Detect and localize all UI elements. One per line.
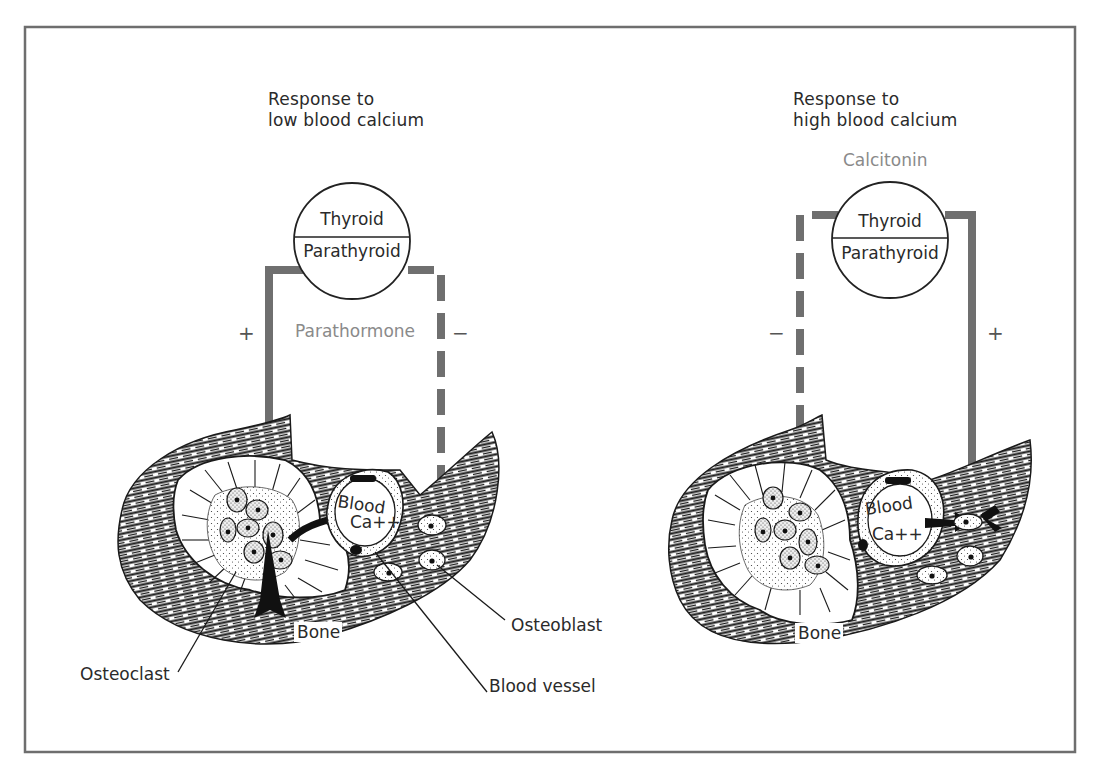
right-hormone-label: Calcitonin — [843, 150, 927, 170]
left-pathway-dashed — [408, 270, 441, 495]
right-panel: Response to high blood calcium Calcitoni… — [669, 89, 1032, 644]
left-plus-sign: + — [238, 321, 255, 345]
right-bone-label: Bone — [798, 623, 841, 643]
left-minus-sign: − — [452, 321, 469, 345]
blood-vessel-callout: Blood vessel — [489, 676, 596, 696]
right-ca-label: Ca++ — [872, 524, 923, 544]
left-title-line2: low blood calcium — [268, 110, 424, 130]
right-title-line1: Response to — [793, 89, 899, 109]
osteoblast-leader-line — [437, 565, 505, 620]
left-title-line1: Response to — [268, 89, 374, 109]
calcium-regulation-diagram: Response to low blood calcium Thyroid Pa… — [0, 0, 1095, 779]
osteoclast-callout: Osteoclast — [80, 664, 170, 684]
left-parathyroid-label: Parathyroid — [303, 241, 400, 261]
right-thyroid-label: Thyroid — [857, 211, 922, 231]
left-bone-label: Bone — [297, 622, 340, 642]
right-bone-illustration: Blood Ca++ Bone — [669, 415, 1032, 644]
right-parathyroid-label: Parathyroid — [841, 243, 938, 263]
figure-frame — [25, 27, 1075, 752]
left-panel: Response to low blood calcium Thyroid Pa… — [80, 89, 603, 696]
osteoblast-callout: Osteoblast — [511, 615, 603, 635]
right-title-line2: high blood calcium — [793, 110, 957, 130]
left-ca-label: Ca++ — [350, 512, 401, 532]
right-pathway-solid — [945, 215, 972, 505]
left-hormone-label: Parathormone — [295, 321, 415, 341]
right-minus-sign: − — [768, 321, 785, 345]
right-plus-sign: + — [987, 321, 1004, 345]
left-gland-circle: Thyroid Parathyroid — [294, 183, 410, 299]
right-gland-circle: Thyroid Parathyroid — [832, 182, 948, 298]
left-thyroid-label: Thyroid — [319, 209, 384, 229]
